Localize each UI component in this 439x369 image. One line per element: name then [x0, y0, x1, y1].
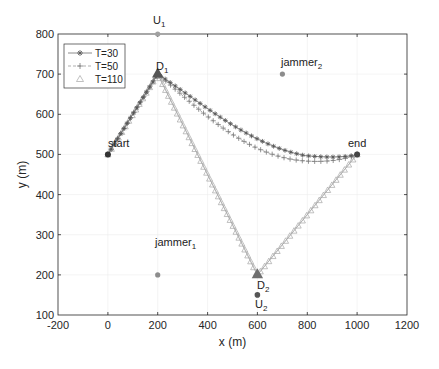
x-tick-label: 0 [105, 319, 111, 331]
legend-label-t30: T=30 [95, 48, 119, 59]
u1-point [155, 31, 160, 36]
jammer1-point [155, 272, 160, 277]
legend-label-t50: T=50 [95, 61, 119, 72]
x-tick-label: 400 [198, 319, 216, 331]
y-tick-labels: 800 700 600 500 400 300 200 100 [36, 28, 54, 321]
y-tick-label: 200 [36, 269, 54, 281]
x-tick-labels: -200 0 200 400 600 800 1000 1200 [47, 319, 419, 331]
y-tick-label: 500 [36, 148, 54, 160]
y-tick-label: 300 [36, 229, 54, 241]
end-point [354, 151, 360, 157]
legend-label-t110: T=110 [95, 74, 123, 85]
x-axis-label: x (m) [219, 335, 246, 349]
x-tick-label: 200 [149, 319, 167, 331]
y-tick-label: 600 [36, 108, 54, 120]
start-point [105, 151, 111, 157]
legend: T=30 T=50 T=110 [64, 44, 125, 88]
y-tick-label: 800 [36, 28, 54, 40]
y-tick-label: 700 [36, 68, 54, 80]
jammer2-point [280, 72, 285, 77]
x-tick-label: 800 [298, 319, 316, 331]
start-label: start [108, 137, 129, 149]
x-tick-label: 600 [248, 319, 266, 331]
y-axis-label: y (m) [15, 161, 29, 188]
u2-point [255, 292, 261, 298]
y-tick-label: 400 [36, 189, 54, 201]
trajectory-chart: -200 0 200 400 600 800 1000 1200 800 700… [0, 0, 439, 369]
end-label: end [348, 137, 366, 149]
x-tick-label: 1200 [395, 319, 419, 331]
u1-label: U1 [153, 14, 166, 29]
x-tick-label: 1000 [345, 319, 369, 331]
y-tick-label: 100 [36, 309, 54, 321]
